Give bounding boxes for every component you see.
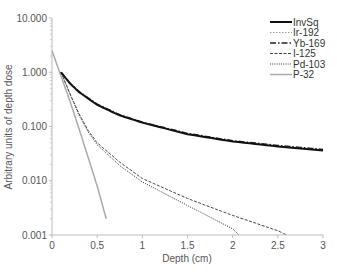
series-line-invsq (61, 72, 323, 150)
series-line-i-125 (61, 72, 287, 235)
y-tick-label: 1.000 (22, 67, 47, 78)
legend-label: P-32 (293, 69, 315, 80)
legend-label: Ir-192 (293, 27, 320, 38)
depth-dose-chart: 10.0001.0000.1000.0100.001 00.511.522.53… (0, 0, 337, 277)
x-tick-label: 2 (230, 240, 236, 251)
x-tick-label: 1 (140, 240, 146, 251)
series-line-p-32 (52, 51, 106, 219)
legend-label: Pd-103 (293, 59, 326, 70)
x-tick-label: 1.5 (181, 240, 195, 251)
x-tick-label: 2.5 (271, 240, 285, 251)
series-line-ir-192 (61, 72, 323, 150)
x-axis-title: Depth (cm) (162, 253, 211, 264)
series-line-yb-169 (61, 72, 323, 149)
y-tick-label: 0.100 (22, 121, 47, 132)
y-tick-label: 0.010 (22, 175, 47, 186)
y-axis-title: Arbitrary units of depth dose (3, 64, 14, 190)
plot-area (52, 51, 323, 235)
y-tick-label: 0.001 (22, 230, 47, 241)
x-tick-label: 0.5 (90, 240, 104, 251)
y-axis: 10.0001.0000.1000.0100.001 (16, 13, 52, 241)
x-tick-label: 3 (320, 240, 326, 251)
y-tick-label: 10.000 (16, 13, 47, 24)
x-tick-label: 0 (49, 240, 55, 251)
legend-label: InvSq (293, 17, 319, 28)
x-axis: 00.511.522.53 (49, 235, 326, 251)
legend-label: Yb-169 (293, 38, 326, 49)
legend: InvSqIr-192Yb-169I-125Pd-103P-32 (270, 17, 326, 81)
legend-label: I-125 (293, 48, 316, 59)
